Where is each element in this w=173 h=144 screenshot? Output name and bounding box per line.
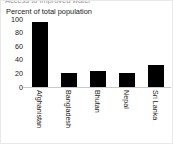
bar-chart-figure: Access to improved water Percent of tota… <box>0 0 173 144</box>
y-axis-tick-60: 60 <box>1 43 23 50</box>
bar-afghanistan <box>32 22 48 87</box>
y-axis-tick-40: 40 <box>1 56 23 63</box>
bar-sri-lanka <box>148 65 164 87</box>
y-axis-tick-20: 20 <box>1 70 23 77</box>
x-axis-label-afghanistan: Afghanistan <box>36 90 43 128</box>
x-axis-label-nepal: Nepal <box>123 90 130 109</box>
y-axis-tick-labels: 020406080100 <box>1 1 23 144</box>
x-axis-label-bangladesh: Bangladesh <box>65 90 72 128</box>
bar-bangladesh <box>61 73 77 87</box>
bar-nepal <box>119 73 135 87</box>
x-axis-baseline <box>23 87 171 88</box>
y-axis-tick-80: 80 <box>1 29 23 36</box>
x-axis-label-bhutan: Bhutan <box>94 90 101 113</box>
bar-bhutan <box>90 71 106 87</box>
clipped-chart-title: Access to improved water <box>5 0 125 4</box>
y-axis-tick-100: 100 <box>1 16 23 23</box>
plot-area <box>25 19 171 87</box>
y-axis-tick-0: 0 <box>1 84 23 91</box>
x-axis-label-sri-lanka: Sri Lanka <box>152 90 159 120</box>
